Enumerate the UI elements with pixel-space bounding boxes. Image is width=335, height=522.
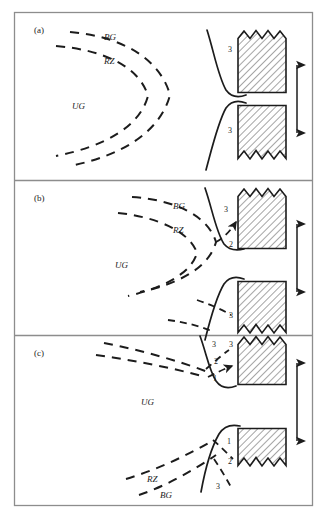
panel-c [96,336,297,495]
num-label-c-5: 2 [228,457,232,466]
coal-block-upper-a [238,31,286,93]
panel-b [118,188,297,340]
zone-label-ug-c: UG [141,397,154,407]
num-label-c-6: 3 [216,482,220,491]
gas-front-solid-lower-c [201,425,240,492]
num-label-b-3: 3 [229,311,233,320]
num-label-a-1: 3 [228,45,232,54]
num-label-c-1: 3 [212,340,216,349]
coal-block-lower-c [238,429,286,467]
coal-block-lower-a [238,106,286,160]
zone-label-rz-c: RZ [147,474,158,484]
bg-front-curve-a [70,32,170,166]
coal-block-upper-b [238,189,286,249]
zone-label-bg-a: BG [104,32,116,42]
bg-ray-upper-c [104,343,208,372]
coal-block-upper-c [238,337,286,385]
zone-label-bg-c: BG [160,490,172,500]
num-label-a-2: 3 [228,126,232,135]
num-label-c-3: 1 [213,374,217,383]
num-label-c-2: 2 [214,357,218,366]
panel-a [56,30,297,170]
num-label-b-1: 3 [224,205,228,214]
zone-label-rz-a: RZ [104,56,115,66]
rz-front-curve-a [56,46,148,156]
zone-label-rz-b: RZ [173,225,184,235]
rz-ray-lower-c [126,441,212,479]
rz-ray-upper-c [96,355,202,376]
panel-letter-c: (c) [34,348,44,358]
num-label-c-4: 1 [227,437,231,446]
num-label-b-2: 2 [229,240,233,249]
zone-label-ug-b: UG [115,260,128,270]
num-label-b-4: 3 [229,340,233,349]
coal-block-lower-b [238,282,286,334]
panel-letter-a: (a) [34,25,44,35]
rz-front-curve-b [118,213,197,296]
zone-label-bg-b: BG [173,201,185,211]
panel-letter-b: (b) [34,193,45,203]
zone-label-ug-a: UG [72,101,85,111]
bg-front-curve-b [132,197,216,292]
figure-canvas [0,0,335,522]
